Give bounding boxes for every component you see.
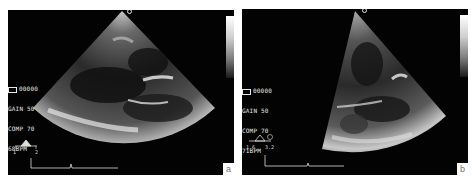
frame-icon (242, 89, 251, 95)
ultrasound-sector-b (242, 9, 468, 175)
orientation-right: 2 (35, 149, 38, 155)
orientation-marker: 1 2 (11, 138, 41, 156)
frame-counter: 00000 (253, 87, 272, 94)
orientation-left: 1 (13, 149, 16, 155)
grayscale-bar (226, 16, 234, 78)
ultrasound-sector-a (8, 10, 234, 175)
grayscale-bar (460, 15, 468, 77)
orientation-right: 3.2 (265, 144, 274, 150)
panel-label: a (223, 163, 234, 175)
orientation-marker: 1.6 3.2 (245, 133, 275, 151)
gain-value: GAIN 50 (8, 106, 38, 113)
frame-icon (8, 87, 17, 93)
comp-value: COMP 70 (8, 126, 38, 133)
echo-panel-a: 00000 GAIN 50 COMP 70 68BPM 13CM 46Hz 1 … (8, 10, 234, 175)
ecg-trace (30, 158, 120, 170)
panel-label: b (457, 163, 468, 175)
orientation-left: 1.6 (246, 144, 255, 150)
frame-counter: 00000 (19, 85, 38, 92)
gain-value: GAIN 50 (242, 108, 272, 115)
ecg-trace (264, 155, 354, 169)
echo-panel-b: 00000 GAIN 50 COMP 70 71BPM 13CM 100Hz 1… (242, 9, 468, 175)
